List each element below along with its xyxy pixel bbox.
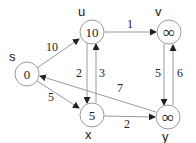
node-s: 0 s [9, 49, 39, 86]
weight-s-x: 5 [48, 90, 54, 104]
node-v: ∞ v [155, 4, 181, 44]
weight-x-y: 2 [124, 117, 130, 131]
node-label: v [155, 4, 162, 19]
node-label: s [9, 49, 16, 64]
weight-s-u: 10 [46, 40, 58, 54]
weight-x-u: 3 [99, 66, 105, 80]
weight-v-y: 5 [155, 66, 161, 80]
node-u: 10 u [78, 4, 104, 44]
node-distance: ∞ [163, 23, 175, 42]
weight-u-x: 2 [76, 66, 82, 80]
node-distance: 10 [86, 25, 99, 40]
node-label: u [78, 4, 85, 19]
node-distance: 0 [24, 67, 31, 82]
weight-y-v: 6 [177, 66, 183, 80]
node-label: y [162, 129, 169, 143]
weight-u-v: 1 [127, 17, 133, 31]
edge-s-x [37, 81, 79, 108]
node-distance: 5 [89, 108, 96, 123]
edge-s-u [37, 39, 79, 68]
node-label: x [85, 127, 92, 142]
weight-y-s: 7 [117, 81, 123, 95]
node-distance: ∞ [162, 108, 174, 127]
node-x: 5 x [80, 103, 104, 142]
node-y: ∞ y [156, 105, 180, 143]
graph-diagram: 10 5 1 2 3 2 7 5 6 0 s 10 u ∞ v 5 x ∞ y [0, 0, 196, 143]
